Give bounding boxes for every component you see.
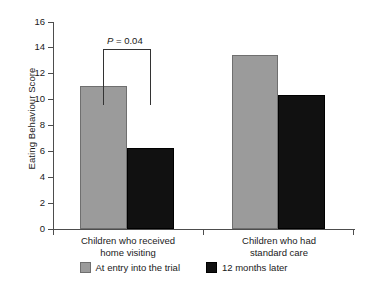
y-tick-label-16: 16 bbox=[34, 17, 45, 27]
y-tick-label-6: 6 bbox=[40, 146, 45, 156]
legend: At entry into the trial 12 months later bbox=[0, 262, 367, 273]
y-tick-6 bbox=[48, 151, 53, 152]
x-group-label-2: Children who had standard care bbox=[199, 235, 359, 258]
bar-group1-12-months bbox=[127, 148, 174, 229]
p-value-number: = 0.04 bbox=[113, 35, 142, 46]
p-value-bracket bbox=[103, 49, 151, 105]
x-group-label-2-line-1: Children who had bbox=[199, 235, 359, 247]
bar-group1-at-entry bbox=[80, 86, 127, 229]
x-group-label-2-line-2: standard care bbox=[199, 247, 359, 259]
y-tick-label-8: 8 bbox=[40, 120, 45, 130]
plot-area: 0 2 4 6 8 10 12 14 16 bbox=[53, 22, 355, 230]
y-tick-4 bbox=[48, 177, 53, 178]
y-tick-8 bbox=[48, 125, 53, 126]
x-group-label-1: Children who received home visiting bbox=[48, 235, 208, 258]
y-tick-10 bbox=[48, 99, 53, 100]
y-tick-14 bbox=[48, 47, 53, 48]
y-tick-label-12: 12 bbox=[34, 68, 45, 78]
y-tick-label-0: 0 bbox=[40, 224, 45, 234]
bar-group2-12-months bbox=[278, 95, 325, 229]
y-tick-16 bbox=[48, 22, 53, 23]
black-swatch-icon bbox=[206, 262, 217, 273]
y-tick-2 bbox=[48, 203, 53, 204]
y-tick-label-4: 4 bbox=[40, 172, 45, 182]
x-group-label-1-line-2: home visiting bbox=[48, 247, 208, 259]
y-tick-12 bbox=[48, 73, 53, 74]
legend-label-at-entry: At entry into the trial bbox=[96, 262, 180, 273]
legend-item-12-months: 12 months later bbox=[206, 262, 287, 273]
bar-chart: Eating Behaviour Score 0 2 4 6 8 10 12 1… bbox=[0, 0, 367, 288]
y-tick-label-10: 10 bbox=[34, 94, 45, 104]
x-group-label-1-line-1: Children who received bbox=[48, 235, 208, 247]
y-axis-title: Eating Behaviour Score bbox=[26, 29, 37, 209]
legend-label-12-months: 12 months later bbox=[222, 262, 287, 273]
y-tick-label-14: 14 bbox=[34, 42, 45, 52]
legend-item-at-entry: At entry into the trial bbox=[80, 262, 180, 273]
p-value-label: P = 0.04 bbox=[107, 35, 143, 46]
y-tick-label-2: 2 bbox=[40, 198, 45, 208]
bar-group2-at-entry bbox=[232, 55, 278, 229]
y-axis-line bbox=[53, 22, 54, 230]
gray-swatch-icon bbox=[80, 262, 91, 273]
